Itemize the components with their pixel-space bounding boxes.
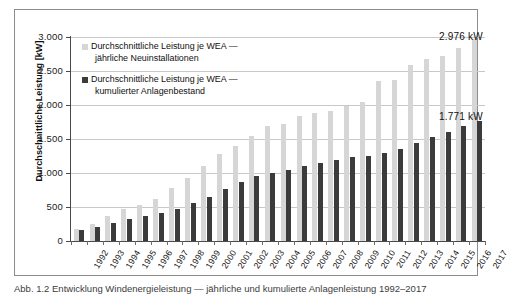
x-tick-label: 2009 bbox=[363, 248, 382, 270]
y-tick-label: 3.000 bbox=[23, 31, 63, 42]
bar-group bbox=[392, 37, 403, 241]
bar-cumulative-stock bbox=[191, 203, 196, 241]
bar-group bbox=[281, 37, 292, 241]
x-tick-label: 2015 bbox=[458, 248, 477, 270]
x-tick-label: 2011 bbox=[394, 248, 413, 270]
legend-label-new-line1: Durchschnittliche Leistung je WEA — bbox=[91, 41, 238, 53]
y-tick-label: 1.000 bbox=[23, 167, 63, 178]
bar-cumulative-stock bbox=[350, 157, 355, 241]
x-tick-label: 2014 bbox=[442, 248, 461, 270]
x-tick-mark bbox=[453, 241, 454, 245]
x-tick-mark bbox=[310, 241, 311, 245]
annotation-cumulative-2017: 1.771 kW bbox=[439, 111, 483, 122]
x-tick-label: 2005 bbox=[299, 248, 318, 270]
bar-new-installations bbox=[153, 199, 158, 242]
x-tick-mark bbox=[437, 241, 438, 245]
x-tick-label: 2008 bbox=[347, 248, 366, 270]
x-tick-mark bbox=[342, 241, 343, 245]
x-tick-label: 2006 bbox=[315, 248, 334, 270]
bar-new-installations bbox=[328, 111, 333, 241]
x-tick-mark bbox=[278, 241, 279, 245]
bar-cumulative-stock bbox=[398, 149, 403, 241]
chart-legend: Durchschnittliche Leistung je WEA — jähr… bbox=[82, 41, 238, 107]
bar-cumulative-stock bbox=[95, 227, 100, 241]
bar-group bbox=[440, 37, 451, 241]
y-tick-mark bbox=[66, 207, 70, 208]
x-tick-mark bbox=[71, 241, 72, 245]
figure-frame: Durchschnittliche Leistung [kW] 05001.00… bbox=[14, 9, 478, 276]
annotation-new-installations-2017: 2.976 kW bbox=[439, 31, 483, 42]
x-tick-mark bbox=[151, 241, 152, 245]
bar-cumulative-stock bbox=[223, 189, 228, 241]
y-tick-label: 500 bbox=[23, 201, 63, 212]
bar-cumulative-stock bbox=[143, 216, 148, 241]
bar-group bbox=[376, 37, 387, 241]
x-tick-mark bbox=[326, 241, 327, 245]
bar-new-installations bbox=[201, 166, 206, 241]
bar-group bbox=[424, 37, 435, 241]
bar-group bbox=[265, 37, 276, 241]
bar-new-installations bbox=[281, 124, 286, 241]
bar-cumulative-stock bbox=[79, 230, 84, 241]
bar-new-installations bbox=[265, 126, 270, 241]
x-tick-mark bbox=[469, 241, 470, 245]
bar-cumulative-stock bbox=[175, 209, 180, 241]
x-tick-mark bbox=[103, 241, 104, 245]
x-tick-mark bbox=[230, 241, 231, 245]
x-tick-label: 2017 bbox=[490, 248, 509, 270]
bar-group bbox=[312, 37, 323, 241]
bar-new-installations bbox=[344, 106, 349, 241]
y-tick-label: 0 bbox=[23, 235, 63, 246]
x-tick-label: 1997 bbox=[171, 248, 190, 270]
y-tick-mark bbox=[66, 37, 70, 38]
bar-cumulative-stock bbox=[207, 197, 212, 241]
x-tick-mark bbox=[214, 241, 215, 245]
bar-new-installations bbox=[440, 56, 445, 241]
x-tick-label: 2004 bbox=[283, 248, 302, 270]
x-tick-label: 1999 bbox=[203, 248, 222, 270]
legend-label-new-line2: jährliche Neuinstallationen bbox=[95, 53, 238, 65]
bar-new-installations bbox=[408, 65, 413, 241]
bar-cumulative-stock bbox=[159, 213, 164, 241]
x-tick-mark bbox=[167, 241, 168, 245]
bar-group bbox=[344, 37, 355, 241]
bar-new-installations bbox=[456, 48, 461, 241]
legend-entry-cumulative-stock: Durchschnittliche Leistung je WEA — kumu… bbox=[82, 74, 238, 97]
x-tick-mark bbox=[119, 241, 120, 245]
bar-new-installations bbox=[297, 116, 302, 241]
bar-group bbox=[360, 37, 371, 241]
bar-new-installations bbox=[217, 154, 222, 241]
x-tick-label: 2001 bbox=[235, 248, 254, 270]
bar-new-installations bbox=[233, 146, 238, 241]
bar-cumulative-stock bbox=[414, 143, 419, 241]
bar-cumulative-stock bbox=[446, 132, 451, 241]
legend-entry-new-installations: Durchschnittliche Leistung je WEA — jähr… bbox=[82, 41, 238, 64]
y-tick-mark bbox=[66, 105, 70, 106]
x-tick-label: 1996 bbox=[156, 248, 175, 270]
x-tick-label: 2010 bbox=[378, 248, 397, 270]
bar-cumulative-stock bbox=[430, 137, 435, 241]
legend-label-cumulative-line1: Durchschnittliche Leistung je WEA — bbox=[91, 74, 238, 86]
x-tick-mark bbox=[358, 241, 359, 245]
bar-cumulative-stock bbox=[334, 160, 339, 241]
bar-new-installations bbox=[472, 39, 477, 241]
bar-cumulative-stock bbox=[302, 166, 307, 241]
bar-new-installations bbox=[105, 216, 110, 241]
bar-new-installations bbox=[424, 59, 429, 241]
x-tick-mark bbox=[262, 241, 263, 245]
x-tick-mark bbox=[421, 241, 422, 245]
bar-group bbox=[328, 37, 339, 241]
y-tick-mark bbox=[66, 71, 70, 72]
x-tick-mark bbox=[389, 241, 390, 245]
bar-cumulative-stock bbox=[270, 173, 275, 241]
bar-new-installations bbox=[312, 113, 317, 241]
x-tick-label: 1995 bbox=[140, 248, 159, 270]
bar-cumulative-stock bbox=[254, 176, 259, 241]
x-tick-mark bbox=[182, 241, 183, 245]
bar-cumulative-stock bbox=[382, 153, 387, 241]
bar-group bbox=[456, 37, 467, 241]
x-tick-mark bbox=[405, 241, 406, 245]
bar-new-installations bbox=[74, 229, 79, 241]
x-tick-label: 1992 bbox=[92, 248, 111, 270]
